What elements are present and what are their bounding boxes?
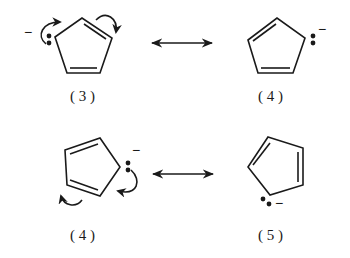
ring-4: [248, 18, 305, 73]
curved-arrow-icon: [41, 22, 60, 44]
ring-5: [248, 137, 303, 195]
structure-4-top: [248, 18, 305, 73]
lone-pair-5: [261, 197, 272, 207]
double-bond-inner: [70, 144, 98, 154]
lone-pair-4-bottom: [126, 161, 131, 173]
label-4-bottom: ( 4 ): [70, 227, 95, 244]
ring-3: [55, 18, 112, 73]
charge-3: −: [24, 24, 32, 40]
label-5: ( 5 ): [258, 227, 283, 244]
curved-arrow-icon: [118, 170, 137, 192]
double-bond-inner: [70, 180, 98, 190]
structure-4-bottom: [61, 138, 137, 205]
label-4-top: ( 4 ): [258, 88, 283, 105]
curved-arrow-icon: [61, 196, 82, 205]
charge-4-top: −: [318, 21, 326, 37]
charge-5: −: [275, 195, 283, 211]
structure-3: [41, 16, 116, 73]
structure-5: [248, 137, 303, 195]
resonance-diagram: − ( 3 ) − ( 4 ) − ( 4 ) − ( 5 ): [0, 0, 350, 258]
label-3: ( 3 ): [70, 88, 95, 105]
charge-4-bottom: −: [132, 142, 140, 158]
lone-pair-4-top: [311, 34, 316, 46]
lone-pair-3: [47, 34, 52, 46]
